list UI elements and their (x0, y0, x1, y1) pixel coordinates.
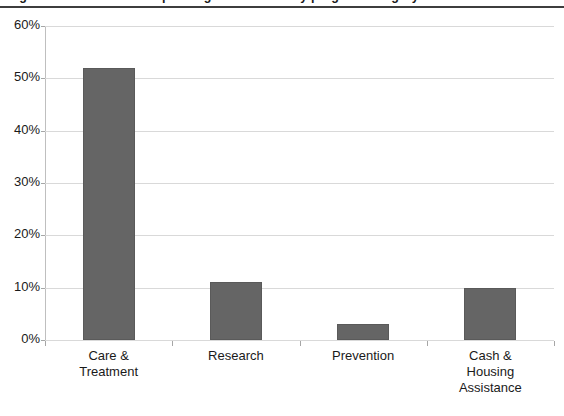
chart-title: Figure 1. Distribution of spending on HI… (8, 0, 419, 3)
x-axis-category-label: Prevention (300, 348, 427, 364)
x-axis-category-label: Care &Treatment (45, 348, 172, 380)
bar (210, 282, 262, 340)
gridline (45, 26, 554, 27)
x-axis-category-label-line: Research (172, 348, 299, 364)
x-axis-tick-mark (300, 341, 301, 346)
x-axis-category-label-line: Housing (427, 364, 554, 380)
x-axis-category-label-line: Treatment (45, 364, 172, 380)
bar (83, 68, 135, 340)
x-axis-category-label-line: Cash & (427, 348, 554, 364)
x-axis-category-label-line: Assistance (427, 380, 554, 396)
x-axis-tick-mark (172, 341, 173, 346)
y-axis-tick-label: 0% (0, 331, 40, 346)
y-axis-tick-label: 60% (0, 17, 40, 32)
title-divider (0, 6, 564, 8)
x-axis-category-label: Cash &HousingAssistance (427, 348, 554, 396)
x-axis-category-label-line: Prevention (300, 348, 427, 364)
plot-area (45, 26, 554, 340)
x-axis-tick-mark (45, 341, 46, 346)
y-axis-tick-label: 20% (0, 226, 40, 241)
y-axis-tick-label: 40% (0, 122, 40, 137)
x-axis-tick-mark (427, 341, 428, 346)
y-axis-tick-label: 10% (0, 279, 40, 294)
bar (337, 324, 389, 340)
y-axis-tick-label: 30% (0, 174, 40, 189)
x-axis-category-label: Research (172, 348, 299, 364)
bar-chart: Figure 1. Distribution of spending on HI… (0, 0, 564, 416)
y-axis-tick-label: 50% (0, 69, 40, 84)
x-axis-tick-mark (554, 341, 555, 346)
y-axis: 60%50%40%30%20%10%0% (0, 0, 40, 416)
x-axis-category-label-line: Care & (45, 348, 172, 364)
bar (464, 288, 516, 340)
